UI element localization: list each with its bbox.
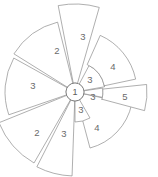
sector-inner-lower-label: 3 <box>78 104 83 115</box>
sector-inner-upper-label: 3 <box>87 74 92 85</box>
center-node-label: 1 <box>72 87 77 97</box>
sector-top-label: 3 <box>80 31 85 42</box>
sector-upper-left-label: 2 <box>54 45 59 56</box>
sector-right-label: 5 <box>122 91 127 102</box>
sector-bottom-left-label: 3 <box>61 128 66 139</box>
sector-inner-right-label: 3 <box>90 91 95 102</box>
sector-bottom-right-label: 4 <box>94 122 99 133</box>
rose-diagram-figure: 1 32323433354 <box>0 0 158 177</box>
rose-diagram-canvas: 1 32323433354 <box>0 0 158 177</box>
sector-lower-left-label: 2 <box>34 127 39 138</box>
sector-left-label: 3 <box>30 80 35 91</box>
sector-upper-right-label: 4 <box>110 61 115 72</box>
hub-layer: 1 <box>66 83 84 101</box>
